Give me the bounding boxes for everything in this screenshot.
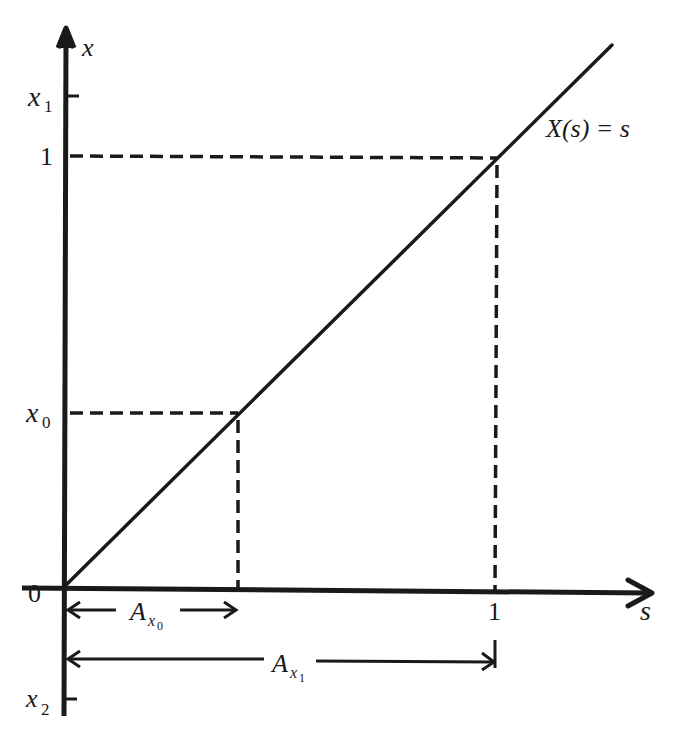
guide-x-one xyxy=(70,156,497,158)
x-axis-arrow-icon xyxy=(58,28,74,48)
svg-text:1: 1 xyxy=(299,671,305,685)
x2-label: x 2 xyxy=(25,684,50,719)
svg-text:x: x xyxy=(25,397,39,428)
a-x0-label: A x 0 xyxy=(128,597,163,633)
svg-text:x: x xyxy=(289,664,297,681)
x-axis-label: x xyxy=(81,33,94,62)
svg-text:0: 0 xyxy=(42,413,51,432)
svg-text:1: 1 xyxy=(44,97,53,116)
x-one-label: 1 xyxy=(40,142,53,171)
svg-text:x: x xyxy=(25,684,38,713)
s-one-label: 1 xyxy=(488,597,501,626)
svg-text:x: x xyxy=(147,612,155,629)
a-x1-label: A x 1 xyxy=(270,649,305,685)
svg-text:x: x xyxy=(27,81,41,112)
curve-x-equals-s xyxy=(64,45,612,587)
diagram-canvas: x s 0 1 1 x 1 x 0 x 2 X(s) = s A x 0 A x… xyxy=(0,0,684,738)
s-axis xyxy=(22,580,652,606)
curve-label: X(s) = s xyxy=(545,114,630,143)
s-axis-label: s xyxy=(640,595,651,626)
svg-text:A: A xyxy=(128,597,146,626)
guide-s-one xyxy=(495,165,497,590)
x1-label: x 1 xyxy=(27,81,53,116)
origin-label: 0 xyxy=(28,579,41,608)
svg-text:0: 0 xyxy=(157,619,163,633)
x0-label: x 0 xyxy=(25,397,51,432)
svg-text:A: A xyxy=(270,649,288,678)
svg-text:2: 2 xyxy=(41,700,50,719)
